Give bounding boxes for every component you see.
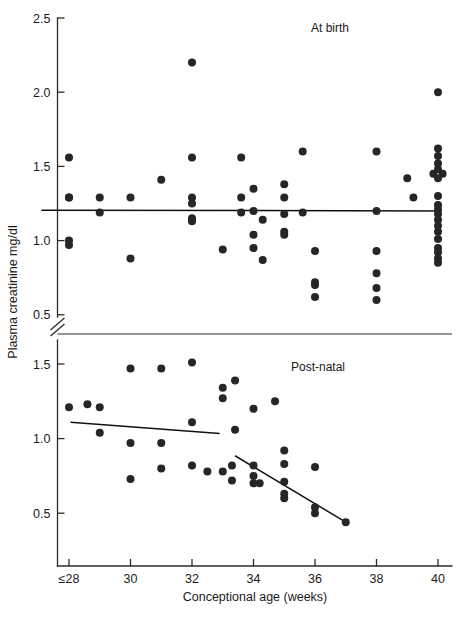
data-point bbox=[311, 247, 319, 255]
data-point bbox=[65, 194, 73, 202]
data-point bbox=[280, 494, 288, 502]
y-tick-label-top-0.5: 0.5 bbox=[33, 308, 50, 322]
data-point bbox=[434, 174, 442, 182]
data-point bbox=[65, 241, 73, 249]
data-point bbox=[280, 447, 288, 455]
data-point bbox=[434, 228, 442, 236]
data-point bbox=[373, 269, 381, 277]
data-point bbox=[65, 154, 73, 162]
data-point bbox=[373, 247, 381, 255]
data-point bbox=[127, 194, 135, 202]
data-point bbox=[188, 217, 196, 225]
data-point bbox=[65, 403, 73, 411]
data-point bbox=[409, 194, 417, 202]
data-point bbox=[434, 259, 442, 267]
data-point bbox=[311, 281, 319, 289]
data-point bbox=[250, 461, 258, 469]
data-point bbox=[373, 207, 381, 215]
data-point bbox=[127, 439, 135, 447]
data-point bbox=[259, 256, 267, 264]
x-tick-label-38: 38 bbox=[370, 572, 384, 586]
data-point bbox=[203, 467, 211, 475]
panel-title-post-natal: Post-natal bbox=[291, 360, 345, 374]
data-point bbox=[434, 192, 442, 200]
data-point bbox=[342, 518, 350, 526]
chart-text-labels: 0.51.01.52.02.50.51.01.5≤28303234363840A… bbox=[6, 12, 445, 605]
data-point bbox=[373, 148, 381, 156]
x-tick-label-36: 36 bbox=[308, 572, 322, 586]
data-point bbox=[280, 460, 288, 468]
data-point bbox=[280, 210, 288, 218]
chart-data-points bbox=[65, 59, 447, 527]
data-point-group-post-natal bbox=[65, 359, 350, 527]
x-tick-label-40: 40 bbox=[431, 572, 445, 586]
data-point bbox=[231, 426, 239, 434]
data-point bbox=[188, 59, 196, 67]
y-tick-label-bottom-1.5: 1.5 bbox=[33, 358, 50, 372]
data-point bbox=[250, 405, 258, 413]
chart-trend-lines bbox=[41, 210, 441, 522]
data-point bbox=[219, 384, 227, 392]
data-point bbox=[250, 185, 258, 193]
x-tick-label-34: 34 bbox=[247, 572, 261, 586]
data-point bbox=[311, 293, 319, 301]
y-tick-label-bottom-1.0: 1.0 bbox=[33, 432, 50, 446]
data-point bbox=[96, 429, 104, 437]
y-axis-title: Plasma creatinine mg/dl bbox=[6, 225, 20, 358]
y-tick-label-top-2.0: 2.0 bbox=[33, 86, 50, 100]
x-axis-title: Conceptional age (weeks) bbox=[183, 590, 328, 604]
data-point bbox=[403, 174, 411, 182]
data-point bbox=[311, 463, 319, 471]
data-point bbox=[219, 467, 227, 475]
data-point bbox=[256, 479, 264, 487]
data-point bbox=[280, 478, 288, 486]
data-point bbox=[280, 194, 288, 202]
data-point bbox=[299, 148, 307, 156]
plasma-creatinine-scatter-chart: 0.51.01.52.02.50.51.01.5≤28303234363840A… bbox=[0, 0, 457, 638]
data-point bbox=[237, 208, 245, 216]
data-point bbox=[188, 200, 196, 208]
post-natal-regression-early bbox=[71, 422, 220, 433]
y-tick-label-top-2.5: 2.5 bbox=[33, 12, 50, 26]
x-tick-label-32: 32 bbox=[185, 572, 199, 586]
data-point bbox=[157, 439, 165, 447]
data-point bbox=[259, 216, 267, 224]
data-point bbox=[228, 461, 236, 469]
data-point bbox=[157, 176, 165, 184]
axis-break-slash-upper bbox=[51, 318, 65, 330]
figure-root: 0.51.01.52.02.50.51.01.5≤28303234363840A… bbox=[0, 0, 457, 638]
data-point bbox=[127, 364, 135, 372]
data-point bbox=[157, 364, 165, 372]
data-point bbox=[188, 359, 196, 367]
data-point bbox=[250, 244, 258, 252]
data-point bbox=[96, 403, 104, 411]
panel-title-at-birth: At birth bbox=[311, 21, 349, 35]
data-point bbox=[434, 152, 442, 160]
data-point bbox=[271, 397, 279, 405]
data-point bbox=[231, 376, 239, 384]
y-tick-label-bottom-0.5: 0.5 bbox=[33, 507, 50, 521]
data-point bbox=[188, 461, 196, 469]
data-point bbox=[373, 296, 381, 304]
data-point-group-at-birth bbox=[65, 59, 447, 304]
data-point bbox=[127, 254, 135, 262]
data-point bbox=[127, 475, 135, 483]
data-point bbox=[434, 88, 442, 96]
data-point bbox=[188, 154, 196, 162]
data-point bbox=[83, 400, 91, 408]
data-point bbox=[434, 235, 442, 243]
data-point bbox=[188, 418, 196, 426]
data-point bbox=[237, 194, 245, 202]
data-point bbox=[373, 284, 381, 292]
data-point bbox=[250, 472, 258, 480]
y-tick-label-top-1.5: 1.5 bbox=[33, 160, 50, 174]
data-point bbox=[219, 246, 227, 254]
data-point bbox=[96, 194, 104, 202]
y-tick-label-top-1.0: 1.0 bbox=[33, 234, 50, 248]
data-point bbox=[434, 145, 442, 153]
data-point bbox=[280, 180, 288, 188]
data-point bbox=[237, 154, 245, 162]
x-tick-label-28: ≤28 bbox=[59, 572, 80, 586]
data-point bbox=[157, 464, 165, 472]
data-point bbox=[299, 208, 307, 216]
